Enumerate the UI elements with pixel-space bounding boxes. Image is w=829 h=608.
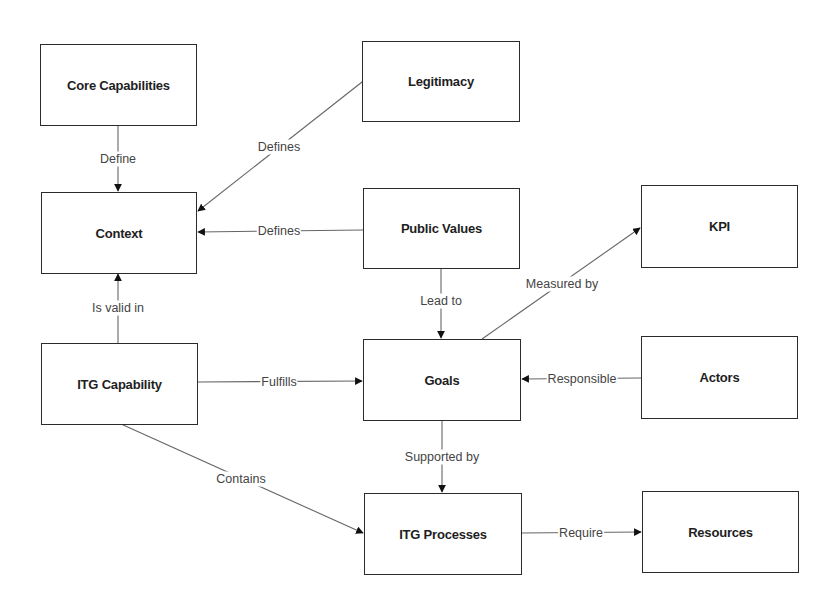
edge-label-define: Define: [99, 152, 137, 167]
edge-label-is-valid-in: Is valid in: [91, 301, 145, 316]
node-label: Resources: [688, 525, 753, 540]
edge-label-measured-by: Measured by: [525, 277, 599, 292]
node-itg-processes: ITG Processes: [364, 493, 522, 575]
node-actors: Actors: [641, 336, 798, 419]
node-label: ITG Processes: [399, 527, 487, 542]
node-goals: Goals: [363, 339, 521, 421]
node-resources: Resources: [642, 491, 799, 573]
edge-label-supported-by: Supported by: [404, 450, 480, 465]
node-label: KPI: [709, 219, 730, 234]
node-label: Goals: [424, 373, 459, 388]
edge-label-contains: Contains: [215, 472, 266, 487]
node-kpi: KPI: [641, 185, 798, 268]
node-label: Public Values: [401, 221, 482, 236]
node-label: Context: [96, 226, 143, 241]
node-label: ITG Capability: [77, 377, 162, 392]
node-legitimacy: Legitimacy: [362, 41, 520, 122]
node-itg-capability: ITG Capability: [41, 343, 198, 425]
edge-label-responsible: Responsible: [547, 372, 618, 387]
node-label: Core Capabilities: [67, 78, 170, 93]
node-label: Actors: [700, 370, 740, 385]
node-public-values: Public Values: [363, 188, 520, 269]
edge-label-fulfills: Fulfills: [260, 375, 297, 390]
edge-label-lead-to: Lead to: [419, 294, 463, 309]
node-context: Context: [41, 192, 197, 274]
edge-label-defines-legitimacy: Defines: [257, 140, 301, 155]
edge-label-require: Require: [558, 526, 604, 541]
node-core-capabilities: Core Capabilities: [40, 44, 197, 126]
node-label: Legitimacy: [408, 74, 474, 89]
edge-label-defines-public-values: Defines: [257, 224, 301, 239]
